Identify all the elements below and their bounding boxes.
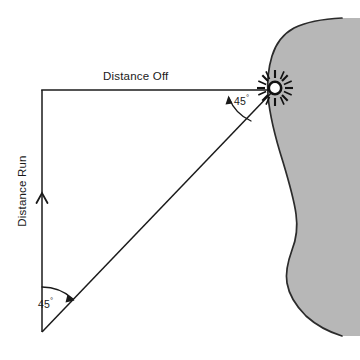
angle-bottom-label: 45° — [38, 296, 54, 310]
navigation-diagram: Distance Off Distance Run 45° 45° — [0, 0, 360, 360]
angle-top-label: 45° — [234, 93, 250, 107]
lighthouse-light-icon — [257, 70, 293, 106]
distance-off-label: Distance Off — [103, 70, 168, 82]
angle-bottom-value: 45 — [38, 298, 50, 310]
coastline-group — [268, 18, 360, 336]
degree-sign-icon: ° — [246, 93, 249, 102]
diagram-canvas — [0, 0, 360, 360]
degree-sign-icon: ° — [50, 296, 53, 305]
land-region — [268, 18, 360, 336]
distance-run-label: Distance Run — [16, 143, 28, 239]
angle-top-value: 45 — [234, 95, 246, 107]
light-disc — [269, 82, 281, 94]
line-of-sight — [42, 89, 275, 332]
bearing-triangle — [41, 89, 275, 332]
